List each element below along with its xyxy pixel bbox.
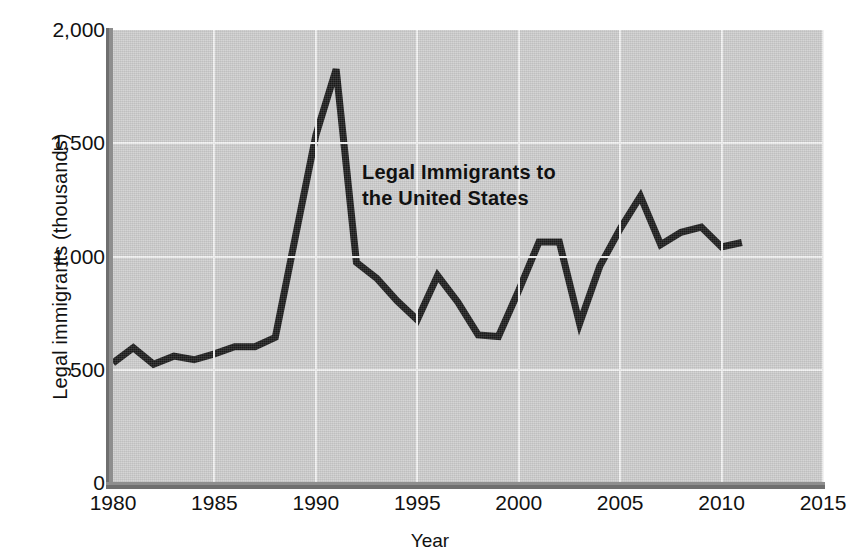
x-tick-label-2010: 2010 [672,492,772,513]
y-axis-spine-inner [106,28,109,485]
x-tick-label-1995: 1995 [367,492,467,513]
x-tick-label-1985: 1985 [164,492,264,513]
y-tick-label-2000: 2,000 [17,19,105,40]
x-tick-label-1980: 1980 [63,492,163,513]
annotation-line-2: the United States [362,186,556,212]
y-tick-label-1000: 1,000 [17,246,105,267]
gridline-y-1000 [113,256,823,258]
x-axis-spine-inner [106,485,825,489]
annotation-line-1: Legal Immigrants to [362,160,556,186]
gridline-y-500 [113,369,823,371]
y-axis-tick-labels: 05001,0001,5002,000 [13,0,105,558]
y-tick-label-500: 500 [17,359,105,380]
x-tick-label-2015: 2015 [773,492,860,513]
gridline-y-1500 [113,142,823,144]
series-annotation: Legal Immigrants to the United States [362,160,556,211]
immigration-line-chart: Legal immigrants (thousands) 05001,0001,… [0,0,860,558]
plot-area [113,30,823,483]
x-tick-label-2000: 2000 [469,492,569,513]
y-tick-label-1500: 1,500 [17,132,105,153]
y-tick-label-0: 0 [17,472,105,493]
x-axis-tick-labels: 19801985199019952000200520102015 [0,492,860,524]
x-tick-label-2005: 2005 [570,492,670,513]
x-tick-label-1990: 1990 [266,492,366,513]
x-axis-title: Year [0,530,860,552]
